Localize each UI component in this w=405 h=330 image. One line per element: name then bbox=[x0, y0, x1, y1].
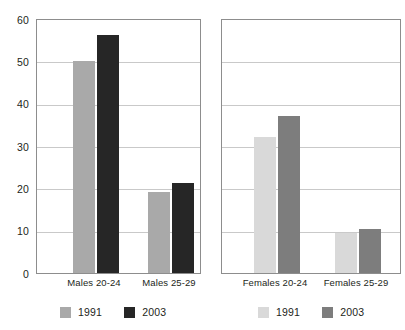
legend-item-males-2003: 2003 bbox=[124, 306, 166, 318]
males-bars bbox=[37, 20, 200, 273]
females-panel bbox=[221, 19, 401, 274]
legend-label-males-2003: 2003 bbox=[142, 306, 166, 318]
legend-item-males-1991: 1991 bbox=[60, 306, 102, 318]
legend-item-females-1991: 1991 bbox=[258, 306, 300, 318]
males-panel bbox=[36, 19, 201, 274]
y-tick-50: 50 bbox=[17, 56, 29, 68]
legend-label-females-1991: 1991 bbox=[276, 306, 300, 318]
y-tick-20: 20 bbox=[17, 183, 29, 195]
males-category-labels: Males 20-24 Males 25-29 bbox=[36, 277, 201, 293]
bar-males-20-24-2003 bbox=[97, 35, 119, 273]
females-legend: 1991 2003 bbox=[258, 303, 386, 321]
y-tick-30: 30 bbox=[17, 141, 29, 153]
legend-label-females-2003: 2003 bbox=[340, 306, 364, 318]
females-bars bbox=[222, 20, 400, 273]
bar-males-25-29-1991 bbox=[148, 192, 170, 273]
bar-females-25-29-2003 bbox=[359, 229, 381, 273]
bar-males-25-29-2003 bbox=[172, 183, 194, 273]
legend-swatch-females-2003 bbox=[322, 307, 333, 318]
legend-item-females-2003: 2003 bbox=[322, 306, 364, 318]
category-label-females-20-24: Females 20-24 bbox=[243, 277, 308, 288]
y-tick-40: 40 bbox=[17, 98, 29, 110]
legend-swatch-females-1991 bbox=[258, 307, 269, 318]
grouped-bar-chart-figure: 60 50 40 30 20 10 0 Males 20-24 Males 25… bbox=[0, 0, 405, 330]
females-category-labels: Females 20-24 Females 25-29 bbox=[221, 277, 401, 293]
y-tick-10: 10 bbox=[17, 225, 29, 237]
bar-males-20-24-1991 bbox=[73, 61, 95, 273]
legend-swatch-males-1991 bbox=[60, 307, 71, 318]
males-plot-area bbox=[37, 20, 200, 273]
y-tick-60: 60 bbox=[17, 14, 29, 26]
bar-females-20-24-2003 bbox=[278, 116, 300, 273]
legend-label-males-1991: 1991 bbox=[78, 306, 102, 318]
y-axis: 60 50 40 30 20 10 0 bbox=[0, 0, 36, 330]
males-legend: 1991 2003 bbox=[60, 303, 188, 321]
category-label-males-25-29: Males 25-29 bbox=[142, 277, 195, 288]
bar-females-20-24-1991 bbox=[254, 137, 276, 273]
females-plot-area bbox=[222, 20, 400, 273]
category-label-females-25-29: Females 25-29 bbox=[324, 277, 389, 288]
bar-females-25-29-1991 bbox=[335, 233, 357, 273]
legend-swatch-males-2003 bbox=[124, 307, 135, 318]
category-label-males-20-24: Males 20-24 bbox=[67, 277, 120, 288]
y-tick-0: 0 bbox=[23, 268, 29, 280]
